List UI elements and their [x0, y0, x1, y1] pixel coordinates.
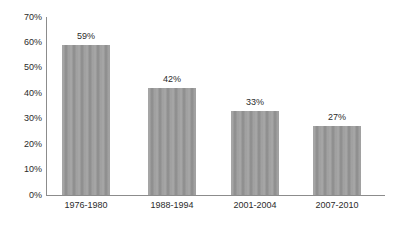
plot-area: 59% 42% 33% 27% [47, 17, 385, 195]
y-tick-label-50: 50% [0, 62, 42, 72]
bar-4[interactable] [313, 126, 361, 195]
y-axis-tick-labels: 70% 60% 50% 40% 30% 20% 10% 0% [0, 0, 42, 227]
y-tick-label-30: 30% [0, 113, 42, 123]
y-tick-label-60: 60% [0, 37, 42, 47]
bar-value-label-3: 33% [219, 97, 291, 107]
y-tick-label-40: 40% [0, 88, 42, 98]
x-tick-label-2: 1988-1994 [132, 200, 212, 211]
bar-value-label-4: 27% [301, 112, 373, 122]
y-tick-label-10: 10% [0, 164, 42, 174]
y-tick-label-70: 70% [0, 12, 42, 22]
x-tick-label-3: 2001-2004 [215, 200, 295, 211]
bar-value-label-1: 59% [50, 31, 122, 41]
bar-value-label-2: 42% [136, 74, 208, 84]
bar-2[interactable] [148, 88, 196, 195]
bar-chart: 70% 60% 50% 40% 30% 20% 10% 0% 59% 42% 3… [0, 0, 394, 227]
x-tick-label-1: 1976-1980 [46, 200, 126, 211]
y-tick-label-0: 0% [0, 190, 42, 200]
bar-3[interactable] [231, 111, 279, 195]
x-axis-line [46, 195, 385, 196]
bar-1[interactable] [62, 45, 110, 195]
y-tick-label-20: 20% [0, 139, 42, 149]
x-tick-label-4: 2007-2010 [297, 200, 377, 211]
